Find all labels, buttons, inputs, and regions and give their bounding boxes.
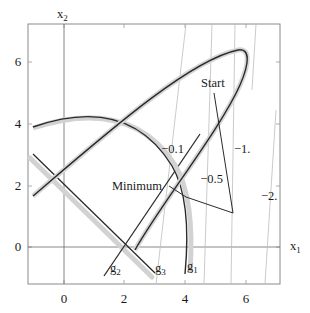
- g2-constraint-line: [104, 134, 200, 276]
- y-tick-2: 2: [15, 178, 22, 193]
- x-tick-0: 0: [61, 291, 68, 306]
- x-tick-4: 4: [182, 291, 189, 306]
- contour-label-1: −1.: [234, 142, 250, 156]
- y-tick-6: 6: [15, 54, 22, 69]
- y-tick-0: 0: [15, 239, 22, 254]
- g3-label: g3: [155, 261, 166, 277]
- g1-circle-shade: [33, 118, 191, 272]
- contour-label-2: −2.: [261, 189, 277, 203]
- y-tick-4: 4: [15, 116, 22, 131]
- g2-label: g2: [110, 261, 121, 277]
- constraint-diagram: 0 2 4 6 0 2 4 6 x2 x1 g2 g3 g1 −0.1 −0.5…: [0, 0, 310, 313]
- contour-label-0-1: −0.1: [161, 142, 184, 156]
- start-label: Start: [201, 76, 225, 90]
- g1-label: g1: [187, 259, 198, 275]
- g3-shade: [30, 158, 152, 277]
- minimum-label: Minimum: [112, 179, 162, 193]
- x-tick-6: 6: [243, 291, 250, 306]
- x-tick-2: 2: [121, 291, 128, 306]
- x-axis-label: x1: [290, 239, 301, 255]
- g3-constraint-line: [33, 154, 155, 273]
- contour-label-0-5: −0.5: [200, 172, 223, 186]
- g1-circle-arc: [33, 117, 187, 274]
- y-axis-label: x2: [57, 7, 68, 23]
